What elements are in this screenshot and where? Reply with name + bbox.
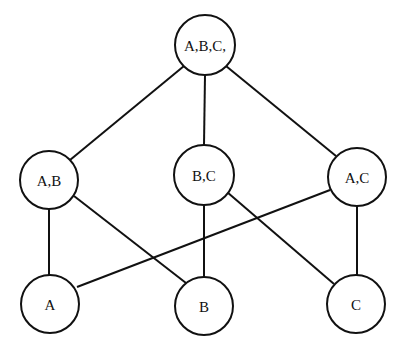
node-label: A	[45, 297, 56, 313]
node-label: B,C	[192, 168, 216, 184]
node-ac: A,C	[328, 148, 386, 206]
node-bc: B,C	[174, 145, 234, 205]
node-label: A,C	[345, 170, 370, 186]
nodes: A,B,C, A,B B,C A,C A B C	[20, 15, 386, 335]
edge-abc-bc	[204, 75, 205, 145]
node-label: A,B,C,	[184, 38, 226, 54]
node-c: C	[327, 275, 385, 333]
edge-ab-b	[74, 196, 186, 283]
edge-abc-ac	[226, 66, 336, 156]
lattice-diagram: A,B,C, A,B B,C A,C A B C	[0, 0, 403, 352]
node-label: A,B	[37, 173, 62, 189]
edge-abc-ab	[70, 66, 184, 160]
node-a: A	[21, 275, 79, 333]
node-b: B	[175, 277, 233, 335]
node-label: B	[199, 299, 209, 315]
edge-bc-c	[227, 192, 334, 284]
node-ab: A,B	[20, 151, 78, 209]
node-abc: A,B,C,	[175, 15, 235, 75]
node-label: C	[351, 297, 361, 313]
